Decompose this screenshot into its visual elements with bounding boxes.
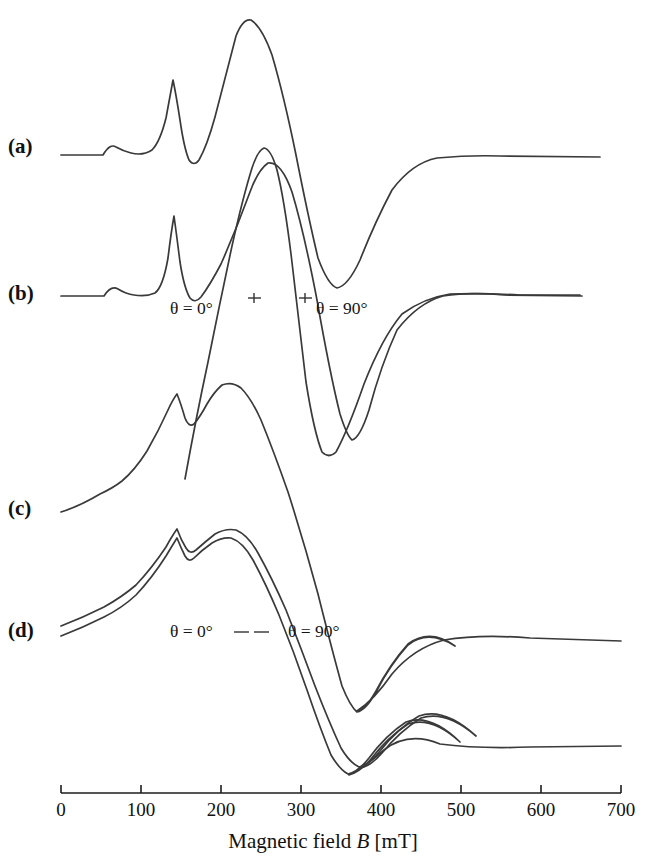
curve-b-theta-90: [185, 148, 580, 479]
annotation-d-theta-0: θ = 0°: [170, 623, 213, 641]
panel-label-d: (d): [8, 620, 34, 641]
axis-tick-label-0: 0: [56, 800, 66, 819]
axis-tick-label-100: 100: [127, 800, 156, 819]
curve-d-theta-0: [61, 538, 621, 775]
spectra-curve-group: [61, 20, 621, 775]
annotation-b-theta-90: θ = 90°: [316, 300, 368, 318]
curve-c: [61, 384, 621, 712]
curve-d-theta-90: [61, 529, 476, 768]
annotation-b-theta-0: θ = 0°: [170, 300, 213, 318]
panel-label-c: (c): [8, 498, 31, 519]
axis-tick-label-700: 700: [607, 800, 636, 819]
annotation-d-theta-90: θ = 90°: [288, 623, 340, 641]
axis-ticks: [61, 785, 621, 793]
axis-tick-label-200: 200: [207, 800, 236, 819]
curve-a: [61, 20, 600, 288]
axis-tick-label-300: 300: [287, 800, 316, 819]
x-axis: [61, 785, 621, 793]
axis-title: Magnetic field B [mT]: [0, 829, 646, 854]
axis-title-symbol: B: [357, 829, 370, 853]
axis-tick-label-500: 500: [447, 800, 476, 819]
axis-tick-label-600: 600: [527, 800, 556, 819]
axis-tick-label-400: 400: [367, 800, 396, 819]
axis-title-prefix: Magnetic field: [228, 829, 356, 853]
spectra-plot: [0, 0, 646, 860]
figure-container: (a) (b) (c) (d) θ = 0° θ = 90° θ = 0° θ …: [0, 0, 646, 860]
axis-title-suffix: [mT]: [369, 829, 417, 853]
panel-label-a: (a): [8, 136, 33, 157]
panel-label-b: (b): [8, 283, 34, 304]
